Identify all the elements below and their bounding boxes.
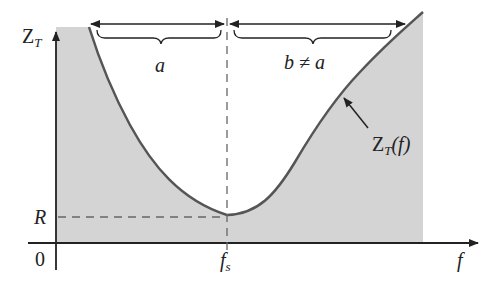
curve-label: ZT(f) xyxy=(372,134,410,154)
bandwidth-left-label: a xyxy=(155,55,165,75)
y-axis-label: ZT xyxy=(22,26,41,46)
diagram-svg xyxy=(0,0,486,285)
x-axis-label: f xyxy=(457,250,463,270)
resonance-frequency-label: fs xyxy=(220,250,231,270)
bandwidth-right-label: b ≠ a xyxy=(284,52,325,72)
origin-label: 0 xyxy=(35,249,45,269)
impedance-frequency-diagram: ZT a b ≠ a ZT(f) R 0 fs f xyxy=(0,0,486,285)
brace-left xyxy=(97,30,221,44)
r-label: R xyxy=(34,207,46,227)
brace-right xyxy=(234,30,391,44)
